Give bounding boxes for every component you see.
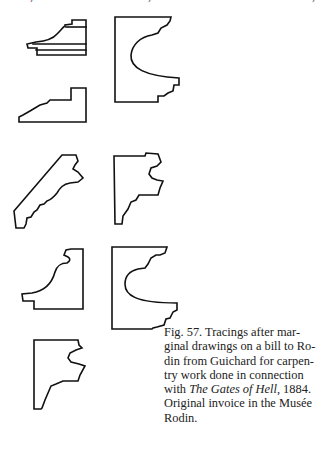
caption-line-5: with The Gates of Hell, 1884. [164,382,324,396]
molding-drawing-6 [22,249,83,309]
molding-drawing-4 [14,155,83,228]
molding-drawing-7 [112,247,177,329]
caption-line-6: Original invoice in the Musée [164,396,324,410]
caption-line-1: Fig. 57. Tracings after mar- [164,325,324,339]
molding-drawing-5 [114,153,163,224]
caption-line-7: Rodin. [164,411,324,425]
caption-line-2: ginal drawings on a bill to Ro- [164,339,324,353]
caption-line-4: try work done in connection [164,368,324,382]
artwork-title: The Gates of Hell [189,382,277,396]
figure-caption: Fig. 57. Tracings after mar- ginal drawi… [164,325,324,425]
caption-line-3: din from Guichard for carpen- [164,354,324,368]
molding-drawing-3 [19,88,86,122]
molding-drawing-2 [115,17,179,102]
caption-with: with [164,382,189,396]
caption-year: , 1884. [277,382,311,396]
molding-drawing-1 [27,20,86,55]
molding-drawing-8 [34,340,85,409]
